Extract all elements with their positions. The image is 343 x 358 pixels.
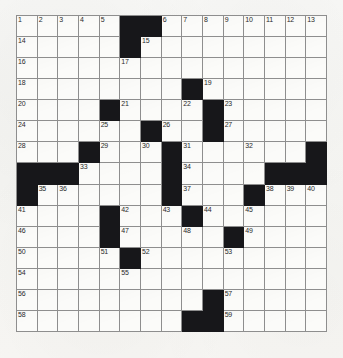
crossword-cell[interactable]: 28 bbox=[17, 142, 38, 163]
crossword-cell[interactable]: 43 bbox=[162, 206, 183, 227]
crossword-cell[interactable] bbox=[79, 248, 100, 269]
crossword-cell[interactable] bbox=[79, 227, 100, 248]
crossword-cell[interactable] bbox=[306, 311, 327, 332]
crossword-cell[interactable] bbox=[141, 185, 162, 206]
crossword-cell[interactable]: 57 bbox=[224, 290, 245, 311]
crossword-cell[interactable] bbox=[265, 58, 286, 79]
crossword-cell[interactable]: 54 bbox=[17, 269, 38, 290]
crossword-cell[interactable] bbox=[100, 269, 121, 290]
crossword-cell[interactable] bbox=[224, 185, 245, 206]
crossword-cell[interactable] bbox=[286, 206, 307, 227]
crossword-cell[interactable] bbox=[265, 248, 286, 269]
crossword-cell[interactable] bbox=[141, 269, 162, 290]
crossword-cell[interactable] bbox=[141, 206, 162, 227]
crossword-cell[interactable] bbox=[182, 290, 203, 311]
crossword-cell[interactable] bbox=[162, 227, 183, 248]
crossword-cell[interactable] bbox=[58, 58, 79, 79]
crossword-cell[interactable] bbox=[79, 290, 100, 311]
crossword-cell[interactable]: 52 bbox=[141, 248, 162, 269]
crossword-cell[interactable]: 25 bbox=[100, 121, 121, 142]
crossword-cell[interactable] bbox=[286, 227, 307, 248]
crossword-cell[interactable] bbox=[265, 206, 286, 227]
crossword-cell[interactable] bbox=[182, 248, 203, 269]
crossword-cell[interactable]: 33 bbox=[79, 163, 100, 184]
crossword-cell[interactable] bbox=[162, 248, 183, 269]
crossword-cell[interactable] bbox=[224, 142, 245, 163]
crossword-cell[interactable] bbox=[120, 121, 141, 142]
crossword-cell[interactable] bbox=[79, 121, 100, 142]
crossword-cell[interactable]: 32 bbox=[244, 142, 265, 163]
crossword-cell[interactable] bbox=[79, 100, 100, 121]
crossword-cell[interactable] bbox=[100, 163, 121, 184]
crossword-cell[interactable] bbox=[38, 269, 59, 290]
crossword-cell[interactable] bbox=[306, 290, 327, 311]
crossword-cell[interactable] bbox=[286, 269, 307, 290]
crossword-cell[interactable] bbox=[244, 163, 265, 184]
crossword-cell[interactable] bbox=[203, 248, 224, 269]
crossword-cell[interactable]: 30 bbox=[141, 142, 162, 163]
crossword-cell[interactable] bbox=[265, 290, 286, 311]
crossword-cell[interactable] bbox=[38, 142, 59, 163]
crossword-cell[interactable] bbox=[244, 79, 265, 100]
crossword-cell[interactable] bbox=[38, 311, 59, 332]
crossword-cell[interactable]: 59 bbox=[224, 311, 245, 332]
crossword-cell[interactable] bbox=[224, 163, 245, 184]
crossword-cell[interactable] bbox=[306, 206, 327, 227]
crossword-cell[interactable] bbox=[100, 79, 121, 100]
crossword-cell[interactable] bbox=[141, 290, 162, 311]
crossword-cell[interactable] bbox=[58, 121, 79, 142]
crossword-cell[interactable] bbox=[182, 58, 203, 79]
crossword-cell[interactable]: 20 bbox=[17, 100, 38, 121]
crossword-cell[interactable] bbox=[38, 100, 59, 121]
crossword-cell[interactable] bbox=[162, 58, 183, 79]
crossword-cell[interactable] bbox=[265, 79, 286, 100]
crossword-cell[interactable] bbox=[120, 79, 141, 100]
crossword-cell[interactable]: 49 bbox=[244, 227, 265, 248]
crossword-cell[interactable] bbox=[141, 163, 162, 184]
crossword-cell[interactable] bbox=[265, 142, 286, 163]
crossword-cell[interactable] bbox=[120, 142, 141, 163]
crossword-cell[interactable]: 45 bbox=[244, 206, 265, 227]
crossword-cell[interactable] bbox=[79, 185, 100, 206]
crossword-cell[interactable]: 29 bbox=[100, 142, 121, 163]
crossword-cell[interactable] bbox=[286, 248, 307, 269]
crossword-cell[interactable] bbox=[79, 58, 100, 79]
crossword-cell[interactable] bbox=[79, 206, 100, 227]
crossword-cell[interactable] bbox=[265, 121, 286, 142]
crossword-cell[interactable] bbox=[244, 37, 265, 58]
crossword-cell[interactable] bbox=[244, 121, 265, 142]
crossword-cell[interactable]: 6 bbox=[162, 16, 183, 37]
crossword-cell[interactable]: 55 bbox=[120, 269, 141, 290]
crossword-cell[interactable] bbox=[100, 185, 121, 206]
crossword-cell[interactable] bbox=[58, 290, 79, 311]
crossword-cell[interactable] bbox=[203, 227, 224, 248]
crossword-cell[interactable] bbox=[100, 311, 121, 332]
crossword-cell[interactable] bbox=[182, 269, 203, 290]
crossword-cell[interactable] bbox=[100, 290, 121, 311]
crossword-cell[interactable]: 31 bbox=[182, 142, 203, 163]
crossword-cell[interactable] bbox=[306, 100, 327, 121]
crossword-cell[interactable]: 40 bbox=[306, 185, 327, 206]
crossword-cell[interactable] bbox=[58, 311, 79, 332]
crossword-cell[interactable] bbox=[58, 206, 79, 227]
crossword-cell[interactable] bbox=[286, 142, 307, 163]
crossword-cell[interactable]: 53 bbox=[224, 248, 245, 269]
crossword-cell[interactable] bbox=[306, 37, 327, 58]
crossword-cell[interactable] bbox=[141, 227, 162, 248]
crossword-cell[interactable]: 15 bbox=[141, 37, 162, 58]
crossword-cell[interactable] bbox=[100, 37, 121, 58]
crossword-cell[interactable]: 1 bbox=[17, 16, 38, 37]
crossword-cell[interactable] bbox=[79, 269, 100, 290]
crossword-cell[interactable] bbox=[203, 185, 224, 206]
crossword-cell[interactable]: 42 bbox=[120, 206, 141, 227]
crossword-cell[interactable] bbox=[38, 121, 59, 142]
crossword-cell[interactable]: 19 bbox=[203, 79, 224, 100]
crossword-cell[interactable]: 7 bbox=[182, 16, 203, 37]
crossword-cell[interactable] bbox=[286, 79, 307, 100]
crossword-cell[interactable]: 14 bbox=[17, 37, 38, 58]
crossword-cell[interactable]: 3 bbox=[58, 16, 79, 37]
crossword-cell[interactable] bbox=[224, 269, 245, 290]
crossword-cell[interactable]: 13 bbox=[306, 16, 327, 37]
crossword-cell[interactable]: 46 bbox=[17, 227, 38, 248]
crossword-cell[interactable]: 48 bbox=[182, 227, 203, 248]
